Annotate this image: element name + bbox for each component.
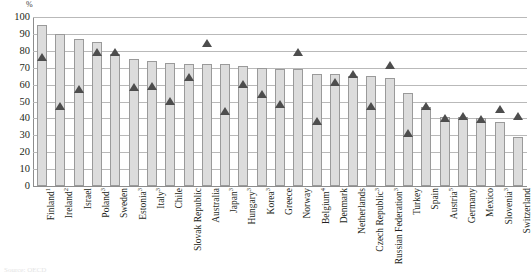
triangle-marker[interactable] [202, 39, 212, 47]
x-axis-category-label: Estonia3 [138, 188, 148, 220]
triangle-marker[interactable] [55, 102, 65, 110]
bar[interactable] [330, 74, 340, 186]
x-axis-category-label: Korea3 [266, 188, 276, 214]
bar-column[interactable] [238, 17, 248, 186]
triangle-marker[interactable] [147, 82, 157, 90]
triangle-marker[interactable] [366, 102, 376, 110]
bar-column[interactable] [257, 17, 267, 186]
bar[interactable] [257, 68, 267, 186]
plot-area [33, 17, 527, 186]
triangle-marker[interactable] [110, 48, 120, 56]
triangle-marker[interactable] [275, 100, 285, 108]
bar[interactable] [348, 76, 358, 186]
x-axis-category-label: Chile [174, 188, 184, 209]
bar[interactable] [147, 61, 157, 186]
x-axis-category-label: Greece [284, 188, 294, 215]
triangle-marker[interactable] [403, 129, 413, 137]
bar[interactable] [440, 117, 450, 186]
triangle-marker[interactable] [238, 80, 248, 88]
bar[interactable] [495, 122, 505, 186]
triangle-marker[interactable] [257, 90, 267, 98]
bar[interactable] [293, 69, 303, 186]
y-axis-tick-label: 90 [4, 29, 30, 40]
x-axis-category-labels: Finland1Ireland2IsraelPoland3SwedenEston… [33, 188, 527, 274]
bar[interactable] [74, 39, 84, 186]
triangle-marker[interactable] [385, 61, 395, 69]
triangle-marker[interactable] [312, 117, 322, 125]
bar[interactable] [55, 34, 65, 186]
bar[interactable] [366, 76, 376, 186]
bar-column[interactable] [129, 17, 139, 186]
bar-column[interactable] [330, 17, 340, 186]
bar-column[interactable] [348, 17, 358, 186]
bar[interactable] [476, 118, 486, 186]
triangle-marker[interactable] [37, 53, 47, 61]
y-axis-tick-label: 10 [4, 164, 30, 175]
triangle-marker[interactable] [184, 73, 194, 81]
bar[interactable] [110, 54, 120, 186]
triangle-marker[interactable] [129, 83, 139, 91]
bar-column[interactable] [92, 17, 102, 186]
bar[interactable] [220, 64, 230, 186]
x-axis-category-label: Mexico [485, 188, 495, 217]
bar-column[interactable] [184, 17, 194, 186]
bar-column[interactable] [458, 17, 468, 186]
y-axis-tick-label: 60 [4, 80, 30, 91]
triangle-marker[interactable] [330, 78, 340, 86]
source-footnote: Source: OECD [4, 266, 46, 274]
bar-column[interactable] [440, 17, 450, 186]
bar-column[interactable] [403, 17, 413, 186]
bar-column[interactable] [476, 17, 486, 186]
triangle-marker[interactable] [476, 115, 486, 123]
x-axis-category-label: Finland1 [46, 188, 56, 220]
triangle-marker[interactable] [421, 102, 431, 110]
triangle-marker[interactable] [513, 112, 523, 120]
x-axis-category-label: Turkey [412, 188, 422, 215]
x-axis-category-label: Russian Federation3 [394, 188, 404, 264]
bar[interactable] [275, 69, 285, 186]
x-axis-category-label: Germany [467, 188, 477, 223]
triangle-marker[interactable] [165, 97, 175, 105]
x-axis-category-label: Belgium4 [321, 188, 331, 224]
bar[interactable] [312, 74, 322, 186]
triangle-marker[interactable] [293, 48, 303, 56]
bar[interactable] [129, 59, 139, 186]
bar[interactable] [513, 137, 523, 186]
bar[interactable] [37, 25, 47, 186]
bar[interactable] [421, 107, 431, 186]
y-axis-tick-label: 100 [4, 12, 30, 23]
bar-column[interactable] [74, 17, 84, 186]
x-axis-category-label: Hungary3 [247, 188, 257, 225]
bar-column[interactable] [147, 17, 157, 186]
x-axis-category-label: Slovenia3 [504, 188, 514, 225]
bar-column[interactable] [220, 17, 230, 186]
triangle-marker[interactable] [495, 105, 505, 113]
bar-column[interactable] [37, 17, 47, 186]
triangle-marker[interactable] [348, 70, 358, 78]
bar-column[interactable] [110, 17, 120, 186]
triangle-marker[interactable] [220, 107, 230, 115]
x-axis-category-label: Austria5 [449, 188, 459, 219]
bar-column[interactable] [513, 17, 523, 186]
x-axis-category-label: Netherlands [357, 188, 367, 234]
bar-column[interactable] [385, 17, 395, 186]
bar[interactable] [403, 93, 413, 186]
bar[interactable] [458, 117, 468, 186]
triangle-marker[interactable] [440, 114, 450, 122]
bar[interactable] [184, 64, 194, 186]
x-axis-category-label: Slovak Republic [193, 188, 203, 251]
bar-column[interactable] [293, 17, 303, 186]
bar[interactable] [385, 78, 395, 186]
bar-column[interactable] [312, 17, 322, 186]
triangle-marker[interactable] [458, 112, 468, 120]
bar-column[interactable] [495, 17, 505, 186]
bar[interactable] [92, 42, 102, 186]
x-axis-category-label: Australia [211, 188, 221, 223]
bar[interactable] [165, 63, 175, 186]
triangle-marker[interactable] [92, 48, 102, 56]
y-axis-tick-label: 50 [4, 97, 30, 108]
y-axis-tick-label: 0 [4, 181, 30, 192]
bar[interactable] [202, 64, 212, 186]
triangle-marker[interactable] [74, 85, 84, 93]
